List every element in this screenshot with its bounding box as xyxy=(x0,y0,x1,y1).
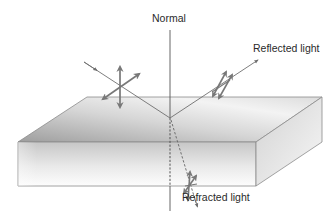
reflected-polarization-arrows xyxy=(212,72,232,98)
reflected-light-label: Reflected light xyxy=(253,43,320,54)
normal-label: Normal xyxy=(152,13,186,24)
slab-front-highlight xyxy=(18,142,256,186)
polarization-diagram xyxy=(0,0,334,222)
refracted-light-label: Refracted light xyxy=(182,192,250,203)
